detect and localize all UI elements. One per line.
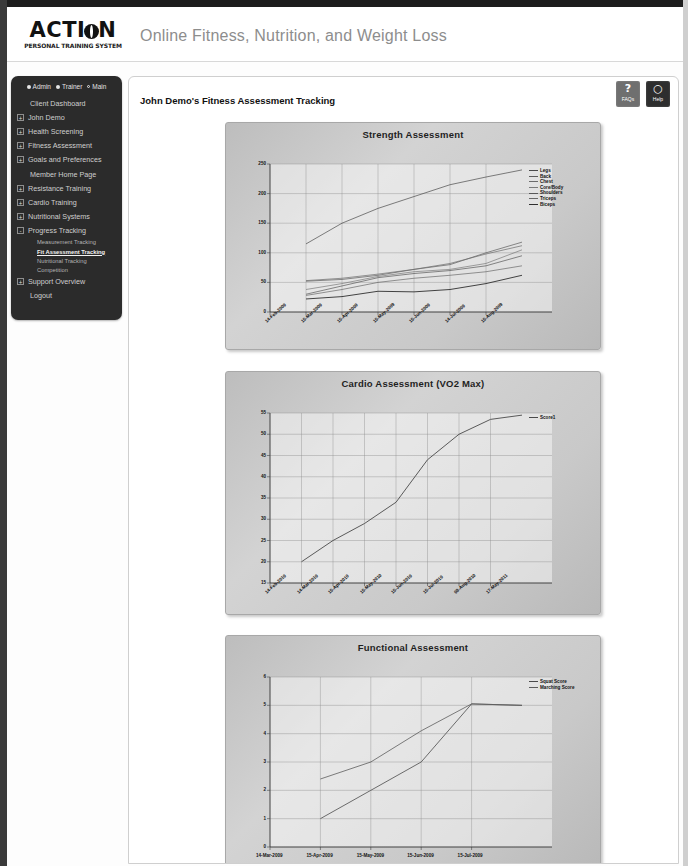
role-label: Main: [92, 83, 106, 90]
y-axis-tick-label: 40: [244, 474, 266, 479]
scan-edge-top: [0, 0, 688, 7]
legend-swatch-icon: [529, 170, 538, 171]
role-label: Admin: [33, 83, 51, 90]
y-axis-tick-label: 1: [244, 816, 266, 821]
expand-plus-icon[interactable]: +: [17, 185, 24, 192]
sidebar-item-label: Cardio Training: [28, 198, 77, 207]
legend-label: Score1: [540, 415, 555, 421]
bullet-icon: [27, 85, 31, 89]
y-axis-tick-label: 50: [244, 279, 266, 284]
legend-label: Biceps: [540, 202, 555, 208]
sidebar-subitem-measurement-tracking[interactable]: Measurement Tracking: [11, 238, 122, 247]
scan-edge-right: [683, 0, 688, 866]
legend-swatch-icon: [529, 198, 538, 199]
logo-text-right: N: [98, 18, 116, 42]
y-axis-tick-label: 35: [244, 495, 266, 500]
y-axis-tick-label: 3: [244, 759, 266, 764]
faqs-button[interactable]: ? FAQs: [616, 81, 640, 107]
help-button-label: Help: [646, 95, 670, 103]
functional-assessment-chart-card: Functional Assessment012345614-Mar-20091…: [225, 635, 601, 864]
sidebar-subitem-competition[interactable]: Competition: [11, 265, 122, 274]
legend-swatch-icon: [529, 181, 538, 182]
chart-title: Functional Assessment: [226, 636, 600, 653]
bullet-ring-icon: [87, 85, 90, 88]
sidebar-subitem-nutritional-tracking[interactable]: Nutritional Tracking: [11, 256, 122, 265]
cardio-assessment-chart-card: Cardio Assessment (VO2 Max)1520253035404…: [225, 371, 601, 615]
site-tagline: Online Fitness, Nutrition, and Weight Lo…: [140, 27, 447, 45]
chart-title: Cardio Assessment (VO2 Max): [226, 372, 600, 389]
role-label: Trainer: [62, 83, 82, 90]
logo-tagline: PERSONAL TRAINING SYSTEM: [19, 42, 127, 49]
sidebar-item-support-overview[interactable]: + Support Overview: [11, 275, 122, 289]
legend-swatch-icon: [529, 687, 538, 688]
sidebar-item-label: Nutritional Systems: [28, 212, 90, 221]
y-axis-tick-label: 2: [244, 787, 266, 792]
y-axis-tick-label: 100: [244, 250, 266, 255]
page-title: John Demo's Fitness Assessment Tracking: [140, 95, 335, 106]
logo-text-left: ACTI: [30, 18, 86, 42]
y-axis-tick-label: 20: [244, 559, 266, 564]
y-axis-tick-label: 15: [244, 580, 266, 585]
expand-plus-icon[interactable]: +: [17, 278, 24, 285]
sidebar-item-health-screening[interactable]: + Health Screening: [11, 124, 122, 138]
legend-item: Score1: [529, 415, 555, 421]
role-trainer[interactable]: Trainer: [56, 83, 82, 90]
sidebar-item-label: Client Dashboard: [30, 99, 86, 108]
help-button-group: ? FAQs ○ Help: [616, 81, 670, 107]
chart-plot-area: 05010015020025014-Feb-200915-Mar-200915-…: [226, 140, 600, 350]
sidebar-item-member-home-page[interactable]: Member Home Page: [11, 167, 122, 181]
legend-swatch-icon: [529, 176, 538, 177]
sidebar-item-goals-and-preferences[interactable]: + Goals and Preferences: [11, 153, 122, 167]
logo-wordmark: ACTIN: [19, 19, 127, 41]
role-admin[interactable]: Admin: [27, 83, 51, 90]
y-axis-tick-label: 250: [244, 161, 266, 166]
x-axis-tick-label: 15-Jun-2009: [407, 853, 434, 858]
expand-plus-icon[interactable]: +: [17, 199, 24, 206]
legend-item: Marching Score: [529, 685, 574, 691]
sidebar-item-john-demo[interactable]: + John Demo: [11, 110, 122, 124]
expand-plus-icon[interactable]: +: [17, 114, 24, 121]
faqs-button-label: FAQs: [616, 95, 640, 103]
y-axis-tick-label: 5: [244, 702, 266, 707]
action-logo[interactable]: ACTIN PERSONAL TRAINING SYSTEM: [19, 19, 127, 49]
legend-swatch-icon: [529, 187, 538, 188]
sidebar-nav: Admin Trainer Main Client Dashboard + Jo…: [11, 76, 122, 320]
legend-item: Biceps: [529, 202, 563, 208]
y-axis-tick-label: 200: [244, 191, 266, 196]
legend-swatch-icon: [529, 417, 538, 418]
expand-plus-icon[interactable]: +: [17, 128, 24, 135]
y-axis-tick-label: 30: [244, 516, 266, 521]
help-button[interactable]: ○ Help: [646, 81, 670, 107]
sidebar-item-cardio-training[interactable]: + Cardio Training: [11, 195, 122, 209]
sidebar-item-label: Logout: [30, 291, 52, 300]
y-axis-tick-label: 25: [244, 538, 266, 543]
y-axis-tick-label: 4: [244, 731, 266, 736]
chart-title: Strength Assessment: [226, 123, 600, 140]
expand-plus-icon[interactable]: +: [17, 213, 24, 220]
role-selector: Admin Trainer Main: [11, 81, 122, 96]
sidebar-item-progress-tracking[interactable]: - Progress Tracking: [11, 224, 122, 238]
x-axis-tick-label: 15-Apr-2009: [306, 853, 332, 858]
sidebar-item-label: Goals and Preferences: [28, 155, 102, 164]
y-axis-tick-label: 0: [244, 844, 266, 849]
chart-plot-area: 15202530354045505514-Feb-201014-Mar-2010…: [226, 389, 600, 615]
sidebar-item-client-dashboard[interactable]: Client Dashboard: [11, 96, 122, 110]
sidebar-item-logout[interactable]: Logout: [11, 289, 122, 303]
sidebar-item-label: Progress Tracking: [28, 226, 86, 235]
help-circle-icon: ○: [646, 83, 670, 95]
expand-plus-icon[interactable]: +: [17, 156, 24, 163]
sidebar-item-fitness-assessment[interactable]: + Fitness Assessment: [11, 139, 122, 153]
sidebar-item-label: Member Home Page: [30, 170, 96, 179]
collapse-minus-icon[interactable]: -: [17, 227, 24, 234]
y-axis-tick-label: 55: [244, 410, 266, 415]
sidebar-subitem-fit-assessment-tracking[interactable]: Fit Assessment Tracking: [11, 247, 122, 256]
expand-plus-icon[interactable]: +: [17, 142, 24, 149]
legend-label: Marching Score: [540, 685, 574, 691]
sidebar-item-label: Fitness Assessment: [28, 141, 92, 150]
y-axis-tick-label: 150: [244, 220, 266, 225]
role-main[interactable]: Main: [87, 83, 106, 90]
sidebar-item-label: Health Screening: [28, 127, 83, 136]
y-axis-tick-label: 6: [244, 674, 266, 679]
sidebar-item-nutritional-systems[interactable]: + Nutritional Systems: [11, 210, 122, 224]
sidebar-item-resistance-training[interactable]: + Resistance Training: [11, 181, 122, 195]
